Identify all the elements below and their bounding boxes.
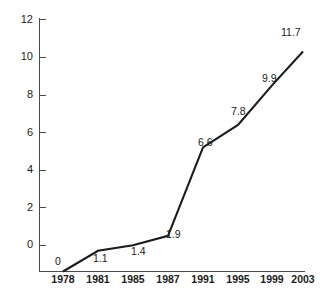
y-axis-tick-label-4: 4 [27, 163, 33, 175]
data-label-5: 7.8 [231, 105, 246, 117]
data-label-2: 1.4 [131, 245, 146, 257]
chart-background [0, 0, 320, 296]
x-axis-tick-label-1985: 1985 [121, 273, 145, 285]
data-label-0: 0 [55, 255, 61, 267]
x-axis-tick-label-1995: 1995 [226, 273, 250, 285]
chart-canvas: 0 2 4 6 8 10 12 1978 1981 1985 1987 1991… [0, 0, 320, 296]
data-label-1: 1.1 [93, 252, 108, 264]
y-axis-tick-label-8: 8 [27, 88, 33, 100]
x-axis-tick-label-1987: 1987 [156, 273, 180, 285]
data-label-3: 1.9 [166, 228, 181, 240]
x-axis-tick-label-1981: 1981 [86, 273, 110, 285]
data-label-6: 9.9 [262, 72, 277, 84]
x-axis-tick-label-1999: 1999 [260, 273, 284, 285]
x-axis-tick-label-1991: 1991 [191, 273, 215, 285]
x-axis-tick-label-2003: 2003 [291, 273, 315, 285]
line-chart-figure: 0 2 4 6 8 10 12 1978 1981 1985 1987 1991… [0, 0, 320, 296]
y-axis-tick-label-2: 2 [27, 201, 33, 213]
x-axis-tick-label-1978: 1978 [51, 273, 75, 285]
y-axis-tick-label-12: 12 [21, 13, 33, 25]
y-axis-tick-label-6: 6 [27, 126, 33, 138]
data-label-4: 6.6 [198, 136, 213, 148]
data-label-7: 11.7 [281, 26, 301, 38]
y-axis-tick-label-10: 10 [21, 50, 33, 62]
y-axis-tick-label-0: 0 [27, 238, 33, 250]
